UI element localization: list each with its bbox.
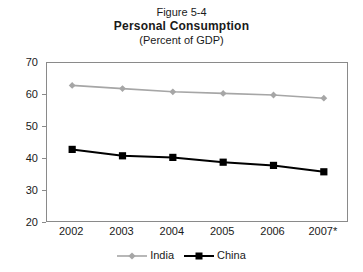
x-axis: 200220032004200520062007*: [46, 224, 348, 242]
series-india: [69, 82, 327, 102]
data-point-marker: [220, 90, 227, 97]
series-line: [72, 85, 324, 98]
y-tick-label: 20: [26, 217, 38, 228]
square-marker-icon: [184, 251, 214, 261]
x-tick-label: 2007*: [308, 226, 337, 237]
y-tick-label: 60: [26, 89, 38, 100]
data-point-marker: [119, 85, 126, 92]
data-point-marker: [69, 146, 76, 153]
data-point-marker: [270, 92, 277, 99]
data-point-marker: [220, 159, 227, 166]
y-tick-label: 40: [26, 153, 38, 164]
series-china: [69, 146, 328, 176]
y-axis: 706050403020: [0, 55, 46, 235]
legend-label-india: India: [150, 250, 174, 261]
plot-inner: [47, 63, 347, 221]
y-tick-label: 70: [26, 57, 38, 68]
x-tick-label: 2006: [260, 226, 284, 237]
x-tick-label: 2005: [210, 226, 234, 237]
legend-item-india: India: [117, 250, 174, 261]
data-point-marker: [270, 162, 277, 169]
x-tick-label: 2002: [59, 226, 83, 237]
data-point-marker: [69, 82, 76, 89]
data-point-marker: [169, 154, 176, 161]
figure-container: Figure 5-4 Personal Consumption (Percent…: [0, 0, 363, 272]
plot-area: [46, 62, 348, 222]
data-point-marker: [119, 152, 126, 159]
chart-legend: India China: [0, 250, 363, 261]
series-layer: [47, 63, 349, 223]
legend-label-china: China: [217, 250, 246, 261]
chart-title: Personal Consumption: [0, 19, 363, 34]
diamond-marker-icon: [117, 251, 147, 261]
chart-title-block: Figure 5-4 Personal Consumption (Percent…: [0, 6, 363, 47]
x-tick-label: 2004: [160, 226, 184, 237]
series-line: [72, 149, 324, 171]
figure-number: Figure 5-4: [0, 6, 363, 19]
data-point-marker: [320, 95, 327, 102]
data-point-marker: [320, 168, 327, 175]
y-tick-mark: [42, 222, 46, 223]
y-tick-label: 30: [26, 185, 38, 196]
x-tick-label: 2003: [109, 226, 133, 237]
data-point-marker: [169, 88, 176, 95]
chart-subtitle: (Percent of GDP): [0, 34, 363, 47]
legend-item-china: China: [184, 250, 246, 261]
y-tick-label: 50: [26, 121, 38, 132]
